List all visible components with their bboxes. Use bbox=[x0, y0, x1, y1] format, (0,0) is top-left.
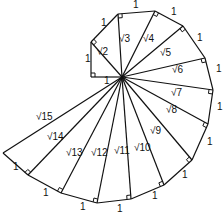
right-angle-marker bbox=[186, 157, 189, 163]
right-angle-marker bbox=[25, 169, 31, 172]
unit-length-label: 1 bbox=[80, 201, 86, 212]
unit-length-label: 1 bbox=[85, 53, 91, 64]
hypotenuse-label: √8 bbox=[166, 104, 177, 115]
spiral-diagram: √2√3√4√5√6√7√8√9√10√11√12√13√14√15111111… bbox=[0, 0, 224, 216]
spiral-of-theodorus-figure: √2√3√4√5√6√7√8√9√10√11√12√13√14√15111111… bbox=[0, 0, 224, 216]
hypotenuse-label: √13 bbox=[66, 147, 83, 158]
hypotenuse-line bbox=[118, 14, 122, 77]
unit-length-label: 1 bbox=[197, 32, 203, 43]
hypotenuse-label: √3 bbox=[119, 33, 130, 44]
unit-leg-line bbox=[118, 11, 155, 14]
hypotenuse-label: √11 bbox=[114, 145, 130, 156]
hypotenuse-label: √4 bbox=[143, 33, 154, 44]
hypotenuse-label: √2 bbox=[97, 46, 108, 57]
unit-leg-line bbox=[131, 185, 164, 199]
unit-leg-line bbox=[97, 199, 131, 203]
unit-length-label: 1 bbox=[133, 0, 139, 10]
unit-leg-line bbox=[208, 90, 213, 124]
unit-length-label: 1 bbox=[171, 6, 177, 17]
hypotenuse-line bbox=[28, 77, 122, 175]
unit-length-label: 1 bbox=[13, 161, 19, 172]
unit-leg-line bbox=[155, 11, 183, 26]
unit-length-label: 1 bbox=[43, 187, 49, 198]
unit-length-label: 1 bbox=[104, 75, 110, 86]
unit-length-label: 1 bbox=[216, 63, 222, 74]
right-angle-marker bbox=[94, 39, 97, 45]
unit-length-label: 1 bbox=[182, 169, 188, 180]
hypotenuse-label: √6 bbox=[172, 64, 183, 75]
hypotenuse-line bbox=[122, 77, 208, 124]
unit-leg-line bbox=[192, 124, 208, 160]
hypotenuse-line bbox=[97, 77, 122, 203]
unit-leg-line bbox=[205, 58, 213, 90]
unit-length-label: 1 bbox=[101, 17, 107, 28]
hypotenuse-label: √14 bbox=[47, 131, 64, 142]
hypotenuse-label: √10 bbox=[134, 142, 151, 153]
hypotenuse-line bbox=[122, 77, 213, 90]
hypotenuse-label: √9 bbox=[150, 125, 161, 136]
hypotenuse-label: √7 bbox=[171, 87, 182, 98]
hypotenuse-line bbox=[61, 77, 122, 193]
unit-leg-line bbox=[164, 160, 192, 185]
unit-length-label: 1 bbox=[217, 101, 223, 112]
hypotenuse-label: √15 bbox=[36, 111, 53, 122]
unit-length-label: 1 bbox=[152, 190, 158, 201]
unit-length-label: 1 bbox=[117, 203, 123, 214]
unit-leg-line bbox=[61, 193, 97, 203]
hypotenuse-label: √12 bbox=[91, 147, 108, 158]
unit-length-label: 1 bbox=[207, 136, 213, 147]
hypotenuse-label: √5 bbox=[160, 47, 171, 58]
hypotenuse-line bbox=[122, 58, 205, 77]
hypotenuse-line bbox=[122, 11, 155, 77]
